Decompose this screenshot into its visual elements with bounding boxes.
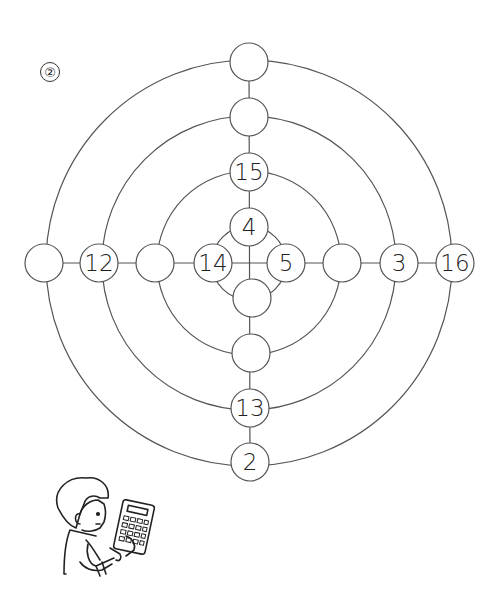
node-circle <box>230 43 268 81</box>
node-circle <box>233 279 271 317</box>
node-value: 2 <box>243 449 258 475</box>
node-top-ring2[interactable]: 15 <box>230 153 268 191</box>
node-circle <box>25 244 63 282</box>
node-bottom-ring1[interactable] <box>233 279 271 317</box>
node-top-ring1[interactable]: 4 <box>230 208 268 246</box>
node-value: 16 <box>440 250 469 276</box>
node-left-ring2[interactable] <box>136 244 174 282</box>
node-right-ring2[interactable] <box>323 244 361 282</box>
node-circle <box>323 244 361 282</box>
node-left-ring1[interactable]: 14 <box>194 244 232 282</box>
node-top-outer[interactable] <box>230 43 268 81</box>
node-value: 14 <box>198 250 227 276</box>
node-value: 4 <box>242 214 257 240</box>
node-value: 13 <box>235 395 264 421</box>
node-bottom-ring3[interactable]: 13 <box>231 389 269 427</box>
hair-icon <box>57 478 109 528</box>
node-value: 12 <box>84 250 113 276</box>
node-top-ring3[interactable] <box>230 98 268 136</box>
node-left-ring3[interactable]: 12 <box>80 244 118 282</box>
node-circle <box>232 334 270 372</box>
node-left-outer[interactable] <box>25 244 63 282</box>
node-value: 3 <box>392 250 407 276</box>
node-value: 5 <box>279 250 294 276</box>
node-right-outer[interactable]: 16 <box>436 244 474 282</box>
child-with-calculator-illustration <box>40 470 200 605</box>
node-circle <box>230 98 268 136</box>
node-right-ring3[interactable]: 3 <box>380 244 418 282</box>
node-bottom-outer[interactable]: 2 <box>231 443 269 481</box>
node-circle <box>136 244 174 282</box>
node-right-ring1[interactable]: 5 <box>267 244 305 282</box>
node-bottom-ring2[interactable] <box>232 334 270 372</box>
node-value: 15 <box>234 159 263 185</box>
